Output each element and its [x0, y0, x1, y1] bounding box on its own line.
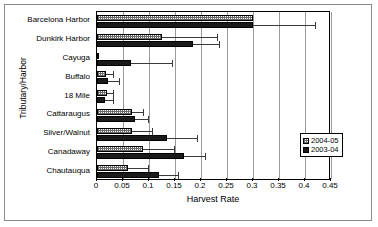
bar-group: [97, 12, 329, 31]
error-bar-cap: [148, 116, 149, 123]
bar: [97, 146, 143, 152]
error-bar-cap: [315, 22, 316, 29]
error-bar: [108, 81, 118, 82]
error-bar-cap: [197, 135, 198, 142]
legend-item: 2004-05: [303, 136, 339, 145]
bar-group: [97, 162, 329, 181]
x-tick-label: 0.25: [218, 181, 234, 190]
bar-slot: [97, 109, 331, 115]
y-axis-label: 18 Mile: [64, 91, 90, 100]
bar: [97, 71, 106, 77]
error-bar-cap: [143, 109, 144, 116]
bar-group: [97, 143, 329, 162]
bar: [97, 41, 193, 47]
y-axis-label: Dunkirk Harbor: [36, 34, 90, 43]
bar-slot: [97, 165, 331, 171]
x-tick-label: 0.35: [270, 181, 286, 190]
error-bar: [162, 37, 217, 38]
bar-group: [97, 31, 329, 50]
error-bar-cap: [217, 34, 218, 41]
bar-slot: [97, 172, 331, 178]
bar-group: [97, 68, 329, 87]
bar-slot: [97, 53, 331, 59]
bar-group: [97, 50, 329, 69]
error-bar-cap: [113, 71, 114, 78]
bar-slot: [97, 15, 331, 21]
y-axis-label: Buffalo: [65, 72, 90, 81]
y-axis-labels: Barcelona HarborDunkirk HarborCayugaBuff…: [0, 11, 94, 180]
error-bar-cap: [178, 172, 179, 179]
error-bar: [143, 149, 174, 150]
bar: [97, 135, 167, 141]
error-bar: [105, 100, 113, 101]
chart-figure: Tributary/Harbor Barcelona HarborDunkirk…: [0, 0, 378, 227]
bar-slot: [97, 22, 331, 28]
error-bar: [131, 63, 173, 64]
bar-slot: [97, 135, 331, 141]
x-tick-label: 0.05: [114, 181, 130, 190]
error-bar-cap: [205, 153, 206, 160]
bar: [97, 60, 131, 66]
x-axis-title: Harvest Rate: [96, 194, 330, 204]
plot-area: [96, 11, 330, 180]
bar-slot: [97, 146, 331, 152]
legend-swatch-icon: [303, 147, 309, 153]
error-bar: [128, 168, 148, 169]
x-tick-label: 0.45: [322, 181, 338, 190]
legend-swatch-icon: [303, 138, 309, 144]
bar: [97, 109, 132, 115]
legend-label: 2003-04: [311, 145, 339, 154]
bar-group: [97, 125, 329, 144]
x-tick-label: 0.4: [298, 181, 309, 190]
error-bar-cap: [113, 90, 114, 97]
x-tick-label: 0: [94, 181, 98, 190]
error-bar-cap: [113, 97, 114, 104]
bar-slot: [97, 34, 331, 40]
bar-slot: [97, 60, 331, 66]
bar: [97, 90, 107, 96]
error-bar: [167, 138, 197, 139]
x-tick-label: 0.1: [142, 181, 153, 190]
y-axis-label: Chautauqua: [46, 166, 90, 175]
y-axis-label: Barcelona Harbor: [27, 15, 90, 24]
x-tick-label: 0.15: [166, 181, 182, 190]
y-axis-label: Silver/Walnut: [43, 128, 90, 137]
error-bar-cap: [152, 128, 153, 135]
bar: [97, 172, 159, 178]
bar-slot: [97, 153, 331, 159]
bar-slot: [97, 78, 331, 84]
bar-group: [97, 87, 329, 106]
bar-slot: [97, 41, 331, 47]
chart-legend: 2004-05 2003-04: [300, 133, 343, 157]
error-bar: [184, 156, 205, 157]
bar-slot: [97, 128, 331, 134]
bar: [97, 15, 253, 21]
x-axis-ticks: 00.050.10.150.20.250.30.350.40.45: [96, 181, 330, 193]
error-bar-cap: [174, 146, 175, 153]
x-tick-label: 0.3: [246, 181, 257, 190]
error-bar-cap: [148, 165, 149, 172]
bar: [97, 22, 253, 28]
error-bar-cap: [219, 41, 220, 48]
error-bar-cap: [172, 60, 173, 67]
bar: [97, 34, 162, 40]
error-bar: [135, 119, 148, 120]
error-bar: [159, 175, 177, 176]
x-tick-label: 0.2: [194, 181, 205, 190]
bar-group: [97, 106, 329, 125]
bar-slot: [97, 71, 331, 77]
bar: [97, 165, 128, 171]
bar: [97, 128, 132, 134]
bar-slot: [97, 90, 331, 96]
bar: [97, 78, 108, 84]
error-bar: [193, 44, 219, 45]
error-bar: [132, 112, 143, 113]
bar: [97, 97, 105, 103]
error-bar: [253, 25, 315, 26]
bar: [97, 116, 135, 122]
bar: [97, 153, 184, 159]
error-bar: [132, 131, 152, 132]
bar-slot: [97, 97, 331, 103]
legend-item: 2003-04: [303, 145, 339, 154]
bar-slot: [97, 116, 331, 122]
